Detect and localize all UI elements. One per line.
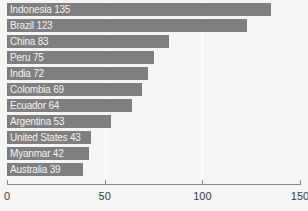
bar-label: United States 43 [10,131,81,144]
bar-row[interactable]: United States 43 [7,131,300,144]
plot-area: Indonesia 135Brazil 123China 83Peru 75In… [7,0,300,183]
bar-row[interactable]: Argentina 53 [7,115,300,128]
bar-label: Colombia 69 [10,83,64,96]
x-tick-label: 100 [193,190,211,202]
bar-row[interactable]: India 72 [7,67,300,80]
bar-label: India 72 [10,67,44,80]
bar-row[interactable]: Brazil 123 [7,19,300,32]
bar-row[interactable]: Ecuador 64 [7,99,300,112]
bar-row[interactable]: Indonesia 135 [7,3,300,16]
x-tick-label: 50 [99,190,111,202]
bar-row[interactable]: Australia 39 [7,163,300,176]
bar-row[interactable]: Peru 75 [7,51,300,64]
bar-label: Ecuador 64 [10,99,59,112]
x-tick-mark-50 [105,180,106,185]
bar-row[interactable]: Myanmar 42 [7,147,300,160]
bar-label: Australia 39 [10,163,60,176]
bar-row[interactable]: Colombia 69 [7,83,300,96]
bar-chart: Indonesia 135Brazil 123China 83Peru 75In… [0,0,308,211]
bar-label: Argentina 53 [10,115,64,128]
x-axis-line [7,184,300,185]
x-tick-mark-0 [7,180,8,185]
bar-label: Peru 75 [10,51,44,64]
bar-row[interactable]: China 83 [7,35,300,48]
bar-label: Brazil 123 [10,19,52,32]
bar-label: China 83 [10,35,48,48]
x-tick-mark-150 [300,180,301,185]
bar-label: Myanmar 42 [10,147,64,160]
bar-label: Indonesia 135 [10,3,70,16]
x-tick-mark-100 [202,180,203,185]
x-tick-label: 150 [291,190,308,202]
x-tick-label: 0 [4,190,10,202]
